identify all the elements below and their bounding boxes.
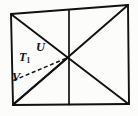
label-u: U xyxy=(36,41,45,54)
outer-quadrilateral-right-edge xyxy=(128,5,129,104)
outer-quadrilateral-bottom-edge xyxy=(13,104,129,105)
outer-quadrilateral-left-edge xyxy=(11,14,13,105)
label-t1-base: T xyxy=(19,50,26,64)
solid-ray-to-center xyxy=(14,58,69,105)
label-t1: T1 xyxy=(19,51,30,64)
label-t1-subscript: 1 xyxy=(27,56,31,65)
label-v: V xyxy=(12,71,20,84)
geometric-figure: T1 U V xyxy=(0,0,138,116)
